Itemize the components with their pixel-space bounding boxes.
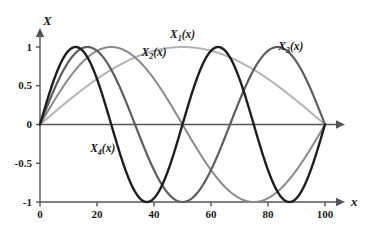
y-tick-label: -1	[23, 196, 32, 208]
x-tick-label: 80	[263, 208, 275, 220]
tick-labels-group: 10.50-0.5-1020406080100Xx	[15, 13, 358, 220]
x-tick-label: 20	[92, 208, 104, 220]
y-axis-arrow	[36, 28, 44, 37]
sine-modes-plot: 10.50-0.5-1020406080100Xx X1(x)X2(x)X3(x…	[0, 0, 372, 234]
x-axis-arrow	[336, 120, 345, 128]
y-tick-label: 1	[27, 41, 33, 53]
x-tick-label: 60	[206, 208, 218, 220]
x-axis-baseline-arrow	[336, 198, 345, 206]
curve-label-x4x: X4(x)	[89, 142, 115, 157]
chart-container: 10.50-0.5-1020406080100Xx X1(x)X2(x)X3(x…	[0, 0, 372, 234]
y-tick-label: 0	[27, 118, 33, 130]
axes-group	[36, 28, 345, 207]
y-tick-label: 0.5	[18, 79, 32, 91]
curve-x1x	[40, 47, 325, 125]
x-tick-label: 0	[37, 208, 43, 220]
curve-label-x2x: X2(x)	[140, 46, 166, 61]
x-tick-label: 100	[317, 208, 334, 220]
y-axis-title: X	[42, 13, 52, 28]
x-tick-label: 40	[149, 208, 161, 220]
x-axis-title: x	[350, 194, 358, 209]
curve-label-x1x: X1(x)	[169, 28, 195, 43]
y-tick-label: -0.5	[15, 157, 33, 169]
